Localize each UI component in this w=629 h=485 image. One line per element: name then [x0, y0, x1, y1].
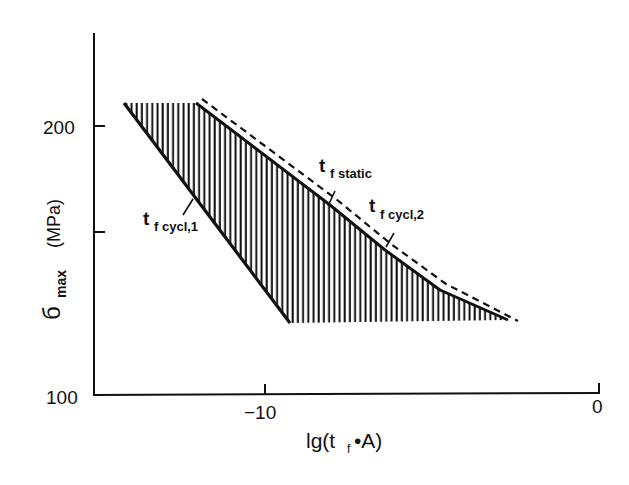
svg-text:t: t	[369, 195, 376, 216]
svg-text:f cycl,2: f cycl,2	[380, 207, 424, 222]
annotation-static: t f static	[319, 155, 372, 206]
x-axis-tail: •A)	[354, 429, 382, 452]
hatched-band	[120, 100, 520, 326]
annotation-cycl-2: t f cycl,2	[369, 195, 424, 247]
svg-text:f cycl,1: f cycl,1	[154, 219, 198, 234]
x-axis-sub: f	[347, 442, 351, 456]
y-axis-sigma: б	[38, 306, 65, 320]
x-axis-title: lg(t f •A)	[306, 429, 382, 456]
y-axis-unit: (MPa)	[44, 199, 64, 248]
y-tick-label-100: 100	[46, 387, 78, 408]
y-tick-label-200: 200	[43, 117, 75, 138]
y-axis	[94, 33, 105, 395]
y-axis-title: б max (MPa)	[38, 199, 69, 320]
chart-canvas: 200 100 −10 0 б max (MPa) lg(t f •A) t f…	[0, 0, 629, 485]
x-tick-label-minus10: −10	[244, 402, 276, 423]
annotation-cycl-1: t f cycl,1	[143, 199, 198, 234]
svg-text:t: t	[319, 155, 326, 176]
x-tick-label-0: 0	[592, 396, 603, 417]
x-axis	[93, 383, 600, 395]
x-axis-main: lg(t	[306, 429, 335, 452]
svg-text:f static: f static	[330, 166, 372, 181]
svg-text:t: t	[143, 208, 150, 229]
y-axis-sub: max	[53, 270, 69, 298]
